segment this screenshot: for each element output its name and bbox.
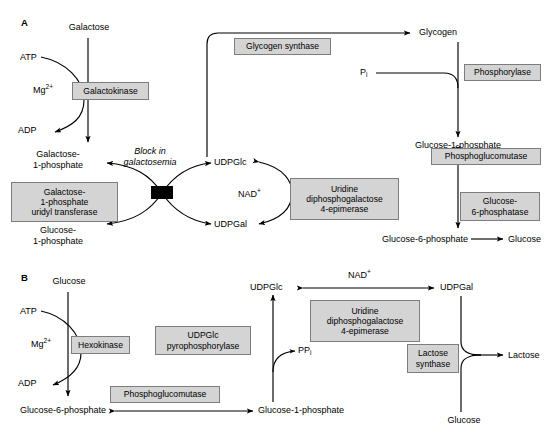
enzyme-epimerase-b-line2: diphosphogalactose — [327, 316, 403, 326]
node-glc1p-left-line2: 1-phosphate — [33, 236, 83, 246]
enzyme-lactose-synthase[interactable]: Lactose synthase — [407, 344, 459, 373]
node-glucose-top-b: Glucose — [38, 276, 100, 287]
node-ppi: PPi — [298, 345, 311, 356]
node-pi-sub: i — [366, 71, 367, 78]
node-nad-b-text: NAD — [348, 270, 367, 280]
enzyme-epimerase-b-line3: 4-epimerase — [341, 326, 389, 336]
node-lactose: Lactose — [508, 350, 552, 361]
node-adp-a: ADP — [18, 125, 37, 136]
galactosemia-block-bar — [151, 186, 173, 199]
enzyme-gal1put-line2: 1-phosphate — [41, 197, 89, 207]
block-note-line1: Block in — [134, 146, 166, 156]
node-mg-b-text: Mg — [31, 339, 44, 349]
node-pi: Pi — [360, 67, 367, 78]
enzyme-epimerase-a-line3: 4-epimerase — [321, 204, 369, 214]
node-glucose-1-phosphate-b: Glucose-1-phosphate — [258, 405, 354, 416]
node-udpglc-a: UDPGlc — [214, 157, 262, 168]
node-nad-b: NAD+ — [348, 270, 371, 281]
node-galactose-1-phosphate: Galactose- 1-phosphate — [12, 149, 104, 170]
node-glucose-6-phosphate-b: Glucose-6-phosphate — [20, 405, 116, 416]
enzyme-glycogen-synthase[interactable]: Glycogen synthase — [234, 38, 331, 55]
node-nad-a-text: NAD — [238, 189, 257, 199]
node-gal1p-line2: 1-phosphate — [33, 160, 83, 170]
node-mg-b-charge: 2+ — [44, 337, 52, 344]
node-udpgal-b: UDPGal — [440, 282, 488, 293]
enzyme-g6pase-line2: 6-phosphatase — [472, 207, 529, 217]
enzyme-hexokinase[interactable]: Hexokinase — [71, 336, 130, 354]
enzyme-hexokinase-label: Hexokinase — [78, 340, 123, 350]
node-glucose-6-phosphate-a: Glucose-6-phosphate — [382, 234, 472, 245]
node-glc1p-left-line1: Glucose- — [40, 225, 76, 235]
enzyme-gal1put-line1: Galactose- — [44, 187, 86, 197]
enzyme-g6pase-line1: Glucose- — [483, 196, 517, 206]
node-gal1p-line1: Galactose- — [36, 149, 80, 159]
arrow-to-ppi — [273, 351, 295, 372]
node-mg-a-text: Mg — [33, 85, 46, 95]
enzyme-glycogen-synthase-label: Glycogen synthase — [246, 41, 319, 51]
enzyme-uridine-diphosphogalactose-4-epimerase-b[interactable]: Uridine diphosphogalactose 4-epimerase — [310, 300, 420, 342]
node-galactose: Galactose — [54, 22, 124, 33]
enzyme-phosphoglucomutase-b[interactable]: Phosphoglucomutase — [110, 386, 220, 403]
arrow-udpglc-udpgal-epimerase-a — [259, 162, 292, 224]
node-udpgal-a: UDPGal — [214, 219, 262, 230]
enzyme-galactokinase-label: Galactokinase — [83, 86, 137, 96]
enzyme-galactokinase[interactable]: Galactokinase — [72, 82, 149, 100]
line-glucose-up-to-lactose — [461, 355, 481, 412]
node-adp-b: ADP — [18, 378, 37, 389]
enzyme-glucose-6-phosphatase[interactable]: Glucose- 6-phosphatase — [460, 192, 540, 221]
enzyme-lactose-synthase-line2: synthase — [416, 359, 450, 369]
line-udpgal-down-to-lactose — [461, 296, 481, 355]
block-note-line2: galactosemia — [123, 157, 176, 167]
enzyme-phosphorylase[interactable]: Phosphorylase — [464, 64, 541, 81]
panel-a-label: A — [21, 17, 28, 28]
node-nad-a: NAD+ — [238, 189, 261, 200]
enzyme-lactose-synthase-line1: Lactose — [418, 348, 448, 358]
node-atp-a: ATP — [20, 52, 37, 63]
enzyme-udpglc-pyrophosphorylase[interactable]: UDPGlc pyrophosphorylase — [155, 326, 251, 355]
node-mg-a: Mg2+ — [33, 85, 53, 96]
panel-b-label: B — [21, 272, 28, 283]
node-nad-a-charge: + — [257, 187, 261, 194]
annotation-galactosemia-block: Block in galactosemia — [108, 146, 192, 167]
arrow-pi-into-phosphorylase — [376, 73, 458, 88]
node-ppi-text: PP — [298, 345, 310, 355]
enzyme-udpglc-pp-line1: UDPGlc — [187, 330, 218, 340]
node-glucose-a: Glucose — [508, 234, 552, 245]
enzyme-uridine-diphosphogalactose-4-epimerase-a[interactable]: Uridine diphosphogalactose 4-epimerase — [290, 178, 399, 220]
node-glucose-1-phosphate-left: Glucose- 1-phosphate — [12, 225, 104, 246]
node-ppi-sub: i — [310, 349, 311, 356]
enzyme-galactose-1-phosphate-uridyl-transferase[interactable]: Galactose- 1-phosphate uridyl transferas… — [11, 182, 118, 222]
node-mg-b: Mg2+ — [31, 339, 51, 350]
node-udpglc-b: UDPGlc — [250, 282, 298, 293]
enzyme-phosphoglucomutase-b-label: Phosphoglucomutase — [124, 389, 207, 399]
node-mg-a-charge: 2+ — [46, 83, 54, 90]
node-atp-b: ATP — [20, 306, 37, 317]
enzyme-epimerase-a-line2: diphosphogalactose — [306, 194, 382, 204]
enzyme-udpglc-pp-line2: pyrophosphorylase — [167, 341, 240, 351]
node-glucose-bottom-b: Glucose — [434, 415, 494, 426]
enzyme-epimerase-b-line1: Uridine — [351, 306, 378, 316]
enzyme-phosphorylase-label: Phosphorylase — [474, 67, 531, 77]
node-glycogen: Glycogen — [419, 27, 481, 38]
enzyme-phosphoglucomutase-a-label: Phosphoglucomutase — [445, 151, 528, 161]
enzyme-gal1put-line3: uridyl transferase — [32, 207, 98, 217]
enzyme-epimerase-a-line1: Uridine — [331, 184, 358, 194]
node-nad-b-charge: + — [367, 268, 371, 275]
enzyme-phosphoglucomutase-a[interactable]: Phosphoglucomutase — [431, 148, 541, 165]
